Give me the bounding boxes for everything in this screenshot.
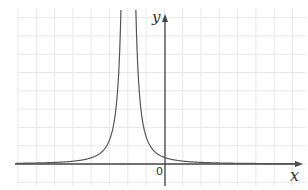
curve-left-branch bbox=[16, 10, 121, 163]
origin-label: 0 bbox=[156, 165, 163, 178]
y-axis-label: y bbox=[152, 8, 160, 26]
curve-right-branch bbox=[136, 10, 300, 164]
x-axis-label: x bbox=[290, 166, 299, 185]
function-graph bbox=[0, 0, 308, 190]
grid bbox=[17, 8, 306, 186]
